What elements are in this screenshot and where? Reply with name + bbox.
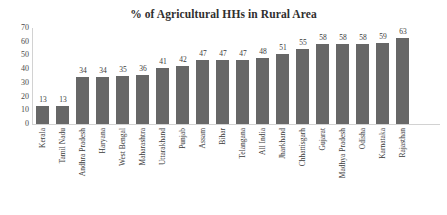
x-axis-tick: Gujarat [313, 126, 333, 214]
x-axis-tick-label: Chhattisgarh [299, 128, 307, 166]
x-axis-tick-label: All India [259, 128, 267, 155]
bar-value-label: 47 [213, 50, 233, 58]
x-axis-tick-label: Karnataka [379, 128, 387, 159]
bar-group[interactable]: 55 [293, 28, 313, 124]
x-axis-tick: Odisha [353, 126, 373, 214]
y-axis: 706050403020100 [8, 28, 29, 124]
x-axis-tick: Bihar [213, 126, 233, 214]
y-axis-tick-label: 70 [21, 24, 29, 32]
bar-value-label: 13 [53, 96, 73, 104]
bar-group[interactable]: 13 [53, 28, 73, 124]
bar[interactable] [296, 49, 309, 124]
chart-title: % of Agricultural HHs in Rural Area [0, 8, 447, 20]
bar[interactable] [336, 44, 349, 124]
x-axis-tick-label: Haryana [99, 128, 107, 153]
x-axis-tick-label: Odisha [359, 128, 367, 149]
bar[interactable] [156, 68, 169, 124]
bar-group[interactable]: 47 [233, 28, 253, 124]
x-axis-tick-label: Madhya Pradesh [339, 128, 347, 178]
bar-group[interactable]: 34 [73, 28, 93, 124]
x-axis-tick: Kerala [33, 126, 53, 214]
bar-group[interactable]: 13 [33, 28, 53, 124]
bar-value-label: 55 [293, 39, 313, 47]
bar-group[interactable]: 35 [113, 28, 133, 124]
x-axis-tick: Assam [193, 126, 213, 214]
x-axis-line [32, 124, 440, 125]
bar-value-label: 36 [133, 65, 153, 73]
x-axis-tick: Karnataka [373, 126, 393, 214]
bar-value-label: 58 [353, 34, 373, 42]
bar-value-label: 63 [393, 28, 413, 36]
bar[interactable] [376, 43, 389, 124]
bar-value-label: 13 [33, 96, 53, 104]
bar[interactable] [76, 77, 89, 124]
x-axis-tick: Tamil Nadu [53, 126, 73, 214]
bar-group[interactable]: 47 [193, 28, 213, 124]
bar[interactable] [356, 44, 369, 124]
bar[interactable] [96, 77, 109, 124]
x-axis-tick: All India [253, 126, 273, 214]
bar[interactable] [316, 44, 329, 124]
bar[interactable] [196, 60, 209, 124]
bar-group[interactable]: 41 [153, 28, 173, 124]
bar[interactable] [216, 60, 229, 124]
bar[interactable] [396, 38, 409, 124]
x-axis-tick-label: Rajasthan [399, 128, 407, 158]
bar[interactable] [36, 106, 49, 124]
x-axis-tick: Punjab [173, 126, 193, 214]
bar-group[interactable]: 58 [353, 28, 373, 124]
x-axis-tick-label: Uttarakhand [159, 128, 167, 165]
x-axis-tick-label: Maharashtra [139, 128, 147, 165]
bar[interactable] [276, 54, 289, 124]
x-axis-tick: Chhattisgarh [293, 126, 313, 214]
bar-value-label: 51 [273, 44, 293, 52]
y-axis-tick-label: 30 [21, 79, 29, 87]
bar-group[interactable]: 48 [253, 28, 273, 124]
x-axis-tick: Madhya Pradesh [333, 126, 353, 214]
bar[interactable] [56, 106, 69, 124]
y-axis-tick-label: 60 [21, 38, 29, 46]
x-axis-tick: Jharkhand [273, 126, 293, 214]
x-axis-tick-label: Telangana [239, 128, 247, 159]
x-axis-tick-label: Kerala [39, 128, 47, 148]
bar-group[interactable]: 58 [333, 28, 353, 124]
bar-group[interactable]: 59 [373, 28, 393, 124]
x-axis-tick: Andhra Pradesh [73, 126, 93, 214]
x-axis-tick-label: Bihar [219, 128, 227, 145]
bar[interactable] [136, 75, 149, 124]
bar-group[interactable]: 47 [213, 28, 233, 124]
bar-value-label: 48 [253, 48, 273, 56]
bar-group[interactable]: 34 [93, 28, 113, 124]
x-axis-tick-label: Tamil Nadu [59, 128, 67, 164]
bar-group[interactable]: 51 [273, 28, 293, 124]
bar[interactable] [176, 66, 189, 124]
bar-value-label: 58 [333, 34, 353, 42]
x-axis-tick-label: Assam [199, 128, 207, 148]
x-axis-tick: Rajasthan [393, 126, 413, 214]
bar-value-label: 41 [153, 58, 173, 66]
bar-value-label: 34 [73, 67, 93, 75]
bar-group[interactable]: 58 [313, 28, 333, 124]
bar-value-label: 42 [173, 56, 193, 64]
bar[interactable] [116, 76, 129, 124]
y-axis-tick-label: 40 [21, 65, 29, 73]
bar-group[interactable]: 36 [133, 28, 153, 124]
bar-value-label: 59 [373, 33, 393, 41]
bar-value-label: 58 [313, 34, 333, 42]
y-axis-tick-label: 20 [21, 93, 29, 101]
bar-group[interactable]: 63 [393, 28, 413, 124]
x-axis-tick-label: West Bengal [119, 128, 127, 166]
y-axis-tick-label: 50 [21, 51, 29, 59]
x-axis-tick-label: Punjab [179, 128, 187, 149]
x-axis-tick-label: Andhra Pradesh [79, 128, 87, 176]
bar-value-label: 47 [233, 50, 253, 58]
bar[interactable] [236, 60, 249, 124]
bar[interactable] [256, 58, 269, 124]
x-axis: KeralaTamil NaduAndhra PradeshHaryanaWes… [33, 126, 440, 214]
bar-value-label: 34 [93, 67, 113, 75]
y-axis-tick-label: 0 [25, 120, 29, 128]
x-axis-tick-label: Jharkhand [279, 128, 287, 159]
bar-group[interactable]: 42 [173, 28, 193, 124]
x-axis-tick: Uttarakhand [153, 126, 173, 214]
bar-chart: % of Agricultural HHs in Rural Area 7060… [0, 0, 447, 215]
